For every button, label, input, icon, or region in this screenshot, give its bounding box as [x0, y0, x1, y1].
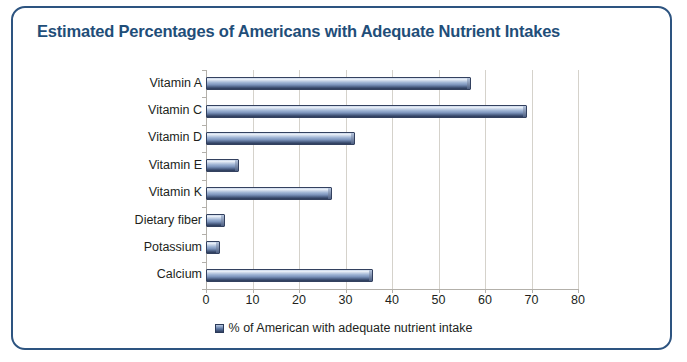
legend-swatch-icon — [215, 324, 224, 333]
legend-label: % of American with adequate nutrient int… — [229, 321, 473, 335]
y-axis-tick — [202, 289, 206, 290]
x-axis-tick-label: 0 — [186, 293, 226, 307]
gridline — [532, 70, 533, 289]
x-axis-tick-label: 10 — [233, 293, 273, 307]
y-axis-tick-label: Calcium — [82, 267, 202, 281]
y-axis-tick-label: Potassium — [82, 240, 202, 254]
bar — [206, 241, 220, 254]
bar-end-cap — [235, 160, 238, 171]
plot-area — [206, 70, 578, 289]
bar — [206, 214, 225, 227]
bar — [206, 269, 373, 282]
gridline — [346, 70, 347, 289]
y-axis-tick-label: Vitamin K — [82, 185, 202, 199]
bar — [206, 159, 239, 172]
y-axis-tick — [202, 234, 206, 235]
bar — [206, 77, 471, 90]
gridline — [485, 70, 486, 289]
bar-end-cap — [467, 78, 470, 89]
bar-end-cap — [369, 270, 372, 281]
y-axis-tick-label: Vitamin D — [82, 130, 202, 144]
y-axis-tick — [202, 262, 206, 263]
y-axis-tick-label: Vitamin E — [82, 158, 202, 172]
chart-title: Estimated Percentages of Americans with … — [37, 22, 560, 41]
bar — [206, 187, 332, 200]
bar-end-cap — [221, 215, 224, 226]
gridline — [299, 70, 300, 289]
bar — [206, 105, 527, 118]
bar-end-cap — [328, 188, 331, 199]
x-axis-line — [206, 289, 578, 290]
y-axis-tick-label: Dietary fiber — [82, 213, 202, 227]
x-axis-tick-label: 20 — [279, 293, 319, 307]
x-axis-tick-label: 50 — [419, 293, 459, 307]
y-axis-tick — [202, 125, 206, 126]
x-axis-tick-labels: 01020304050607080 — [206, 293, 578, 311]
y-axis-tick-labels: Vitamin AVitamin CVitamin DVitamin EVita… — [76, 70, 202, 289]
chart-card: Estimated Percentages of Americans with … — [11, 6, 672, 350]
bar — [206, 132, 355, 145]
y-axis-tick — [202, 180, 206, 181]
y-axis-tick — [202, 97, 206, 98]
bar-end-cap — [523, 106, 526, 117]
y-axis-tick-label: Vitamin C — [82, 103, 202, 117]
y-axis-tick — [202, 152, 206, 153]
x-axis-tick-label: 70 — [512, 293, 552, 307]
bar-end-cap — [351, 133, 354, 144]
x-axis-tick-label: 80 — [558, 293, 598, 307]
gridline — [253, 70, 254, 289]
x-axis-tick-label: 30 — [326, 293, 366, 307]
gridline — [206, 70, 207, 289]
gridline — [439, 70, 440, 289]
chart-legend: % of American with adequate nutrient int… — [13, 321, 674, 335]
bar-end-cap — [216, 242, 219, 253]
x-axis-tick-label: 40 — [372, 293, 412, 307]
y-axis-tick-label: Vitamin A — [82, 76, 202, 90]
gridline — [392, 70, 393, 289]
y-axis-tick — [202, 207, 206, 208]
gridline — [578, 70, 579, 289]
x-axis-tick-label: 60 — [465, 293, 505, 307]
y-axis-tick — [202, 70, 206, 71]
